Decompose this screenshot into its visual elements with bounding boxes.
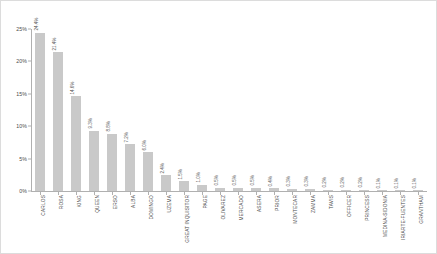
x-axis-line [31, 191, 427, 192]
bar[interactable] [377, 190, 388, 191]
bar[interactable] [395, 190, 406, 191]
x-axis-tick-label: ALBA [132, 195, 137, 208]
x-axis-tick-label: PAGE [204, 195, 209, 209]
bar-value-label: 2.4% [161, 163, 166, 173]
bar[interactable] [341, 190, 352, 191]
x-axis-tick-label: ROSA [60, 195, 65, 209]
bar[interactable] [215, 188, 226, 191]
bar-value-label: 0.2% [341, 177, 346, 187]
bar-column[interactable]: 0.1% [413, 29, 424, 191]
x-axis-tick-label: DOMINGO [150, 195, 155, 220]
bar-column[interactable]: 0.4% [269, 29, 280, 191]
bar[interactable] [323, 190, 334, 191]
bar[interactable] [413, 190, 424, 191]
bar-column[interactable]: 24.4% [35, 29, 46, 191]
x-axis-tick-label: MERCADO [240, 195, 245, 221]
bar-value-label: 0.2% [323, 177, 328, 187]
bar-column[interactable]: 1.0% [197, 29, 208, 191]
bar-column[interactable]: 0.2% [341, 29, 352, 191]
bar[interactable] [89, 131, 100, 191]
plot-area: 24.4%21.4%14.6%9.3%8.8%7.2%6.0%2.4%1.5%1… [31, 29, 427, 191]
x-axis-tick-label: ERSO [114, 195, 119, 209]
bar-value-label: 9.3% [89, 118, 94, 128]
bar[interactable] [233, 188, 244, 191]
bar-column[interactable]: 0.5% [251, 29, 262, 191]
x-axis-tick-label: PRINCESS [366, 195, 371, 221]
x-axis-tick-label: MONTECAR [294, 195, 299, 224]
x-axis-tick-label: ZAMMA [312, 195, 317, 213]
bar[interactable] [251, 188, 262, 191]
bar-value-label: 0.5% [251, 175, 256, 185]
bar-column[interactable]: 0.3% [287, 29, 298, 191]
bar-column[interactable]: 0.3% [305, 29, 316, 191]
bar[interactable] [35, 33, 46, 191]
bar-value-label: 7.2% [125, 132, 130, 142]
bar-column[interactable]: 0.5% [215, 29, 226, 191]
bar-value-label: 0.2% [359, 177, 364, 187]
bar-value-label: 0.5% [215, 175, 220, 185]
bar-value-label: 21.4% [53, 37, 58, 50]
x-axis-tick-label: UZEMA [168, 195, 173, 213]
bar-value-label: 14.6% [71, 81, 76, 94]
bar[interactable] [71, 96, 82, 191]
x-axis-tick-label: IRIARTE-FUENTES [402, 195, 407, 240]
bar-value-label: 6.0% [143, 140, 148, 150]
bar-column[interactable]: 0.1% [377, 29, 388, 191]
bar[interactable] [305, 189, 316, 191]
bar-column[interactable]: 0.1% [395, 29, 406, 191]
bar-column[interactable]: 9.3% [89, 29, 100, 191]
x-axis-tick-label: OLIVAREZ [222, 195, 227, 220]
x-axis-tick-label: GREAT INQUISITOR [186, 195, 191, 243]
bar-value-label: 0.3% [287, 177, 292, 187]
x-axis-tick-label: OFFICER [348, 195, 353, 217]
bar[interactable] [287, 189, 298, 191]
bar-value-label: 0.5% [233, 175, 238, 185]
bar-column[interactable]: 1.5% [179, 29, 190, 191]
bar[interactable] [269, 188, 280, 191]
x-axis-tick-label: KING [78, 195, 83, 207]
bar[interactable] [161, 175, 172, 191]
bar-value-label: 8.8% [107, 122, 112, 132]
bar-column[interactable]: 8.8% [107, 29, 118, 191]
bar[interactable] [143, 152, 154, 191]
bar-column[interactable]: 14.6% [71, 29, 82, 191]
bar-value-label: 0.1% [377, 178, 382, 188]
bar-value-label: 1.5% [179, 169, 184, 179]
bar-chart-figure: 0%5%10%15%20%25% 24.4%21.4%14.6%9.3%8.8%… [0, 0, 437, 254]
x-axis-tick-label: TAVIS [330, 195, 335, 209]
bar-value-label: 0.1% [395, 178, 400, 188]
bar-column[interactable]: 2.4% [161, 29, 172, 191]
bar-value-label: 24.4% [35, 18, 40, 31]
bar[interactable] [179, 181, 190, 191]
bar-value-label: 1.0% [197, 172, 202, 182]
bar-value-label: 0.3% [305, 177, 310, 187]
bar-column[interactable]: 0.2% [323, 29, 334, 191]
x-axis-tick-label: PRIOR [276, 195, 281, 211]
bar[interactable] [125, 144, 136, 191]
bar-value-label: 0.1% [413, 178, 418, 188]
bar-column[interactable]: 6.0% [143, 29, 154, 191]
bar-value-label: 0.4% [269, 176, 274, 186]
x-axis-tick-label: MEDINA-SIDONIA [384, 195, 389, 237]
x-axis-tick-label: GRANTHAM [420, 195, 425, 224]
bar-column[interactable]: 0.2% [359, 29, 370, 191]
bar[interactable] [359, 190, 370, 191]
bar-column[interactable]: 21.4% [53, 29, 64, 191]
bar[interactable] [197, 185, 208, 191]
bar-column[interactable]: 7.2% [125, 29, 136, 191]
bar[interactable] [107, 134, 118, 191]
x-axis-tick-label: ASERA [258, 195, 263, 212]
bar-column[interactable]: 0.5% [233, 29, 244, 191]
x-axis-tick-label: CARLOS [42, 195, 47, 216]
x-axis-tick-label: QUEEN [96, 195, 101, 213]
bar[interactable] [53, 52, 64, 191]
